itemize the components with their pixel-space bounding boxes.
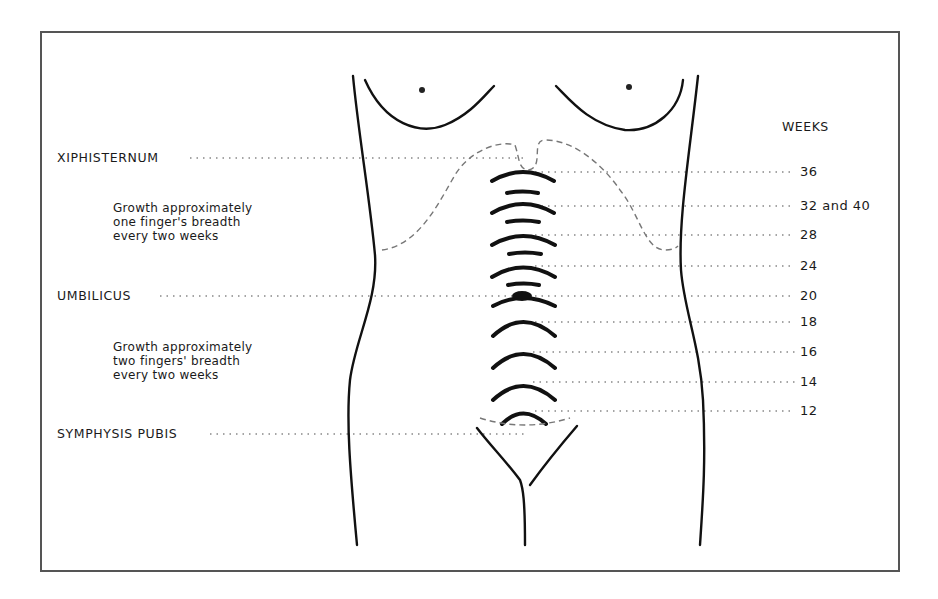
week-label-14: 14 [800,375,818,389]
landmark-guide-lines [160,158,528,434]
note-line: every two weeks [113,229,252,243]
nipples [419,84,632,93]
umbilicus-mark [512,291,532,301]
costal-margin-dashed [382,140,678,250]
weeks-header: WEEKS [782,120,829,134]
week-label-24: 24 [800,259,818,273]
growth-note-upper: Growth approximately one finger's breadt… [113,201,252,243]
right-groin [530,426,577,485]
body-outline [348,76,704,545]
week-label-12: 12 [800,404,818,418]
arc-26 [509,253,541,255]
week-label-18: 18 [800,315,818,329]
left-groin [477,428,525,545]
arc-36b [507,192,538,194]
left-nipple [419,87,425,93]
arc-30 [507,221,539,223]
arc-32-40 [492,204,554,213]
right-nipple [626,84,632,90]
landmark-symphysis-pubis: SYMPHYSIS PUBIS [57,427,177,441]
arc-16 [493,354,555,368]
weeks-guide-lines [533,172,795,411]
arc-18 [493,322,555,336]
note-line: Growth approximately [113,340,252,354]
left-breast [365,80,494,129]
week-label-28: 28 [800,228,818,242]
arc-24 [492,268,555,278]
arc-36 [492,172,554,181]
pubic-dashed-line [480,418,570,425]
arc-28 [492,236,555,245]
week-label-16: 16 [800,345,818,359]
landmark-umbilicus: UMBILICUS [57,289,131,303]
note-line: every two weeks [113,368,252,382]
note-line: Growth approximately [113,201,252,215]
week-label-32-40: 32 and 40 [800,199,870,213]
growth-note-lower: Growth approximately two fingers' breadt… [113,340,252,382]
torso-illustration [0,0,938,599]
week-label-36: 36 [800,165,818,179]
note-line: two fingers' breadth [113,354,252,368]
week-label-20: 20 [800,289,818,303]
right-flank [681,76,705,545]
arc-12 [502,414,546,425]
right-breast [556,80,683,130]
arc-14 [493,386,555,400]
left-flank [348,76,375,545]
arc-22 [508,284,539,286]
note-line: one finger's breadth [113,215,252,229]
landmark-xiphisternum: XIPHISTERNUM [57,151,159,165]
